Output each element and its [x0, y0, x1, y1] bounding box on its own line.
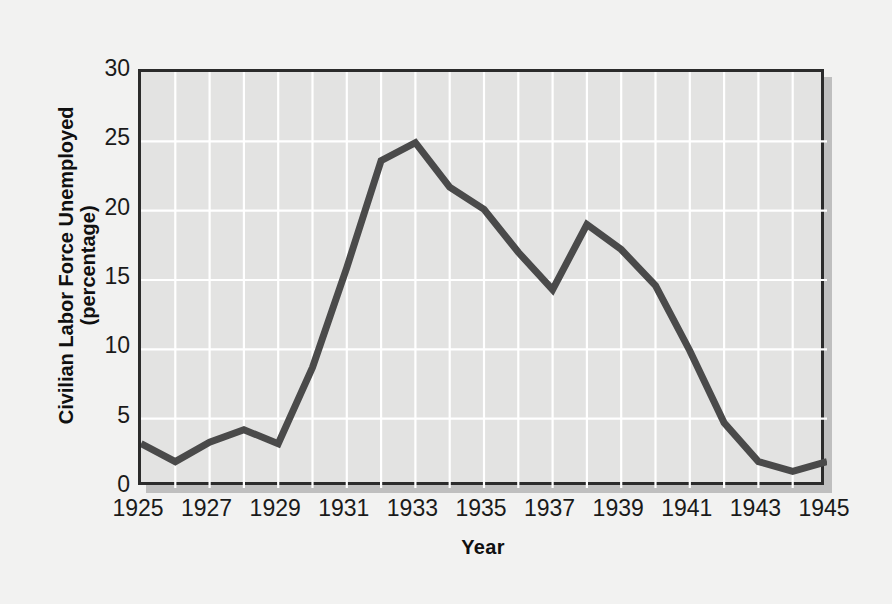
y-axis-title-line2: (percentage)	[77, 55, 99, 475]
y-axis-title: Civilian Labor Force Unemployed (percent…	[55, 55, 100, 475]
y-axis-title-line1: Civilian Labor Force Unemployed	[55, 55, 77, 475]
x-axis-tick-label: 1945	[784, 497, 864, 520]
chart-canvas	[141, 72, 827, 488]
x-axis-title-text: Year	[461, 536, 504, 558]
x-axis-title: Year	[0, 536, 892, 559]
plot-area	[138, 69, 824, 485]
figure: 051015202530 192519271929193119331935193…	[0, 0, 892, 604]
plot-wrapper	[138, 69, 824, 485]
